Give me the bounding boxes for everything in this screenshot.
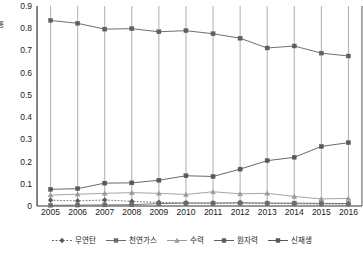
legend-item-원자력[interactable]: 원자력 xyxy=(213,236,258,245)
data-point-marker xyxy=(184,29,188,33)
data-point-marker xyxy=(102,197,107,202)
x-tick-label: 2016 xyxy=(339,208,358,217)
legend-swatch-천연가스 xyxy=(105,236,127,245)
chart-svg xyxy=(36,6,363,208)
y-tick-label: 0 xyxy=(27,202,32,211)
data-point-marker xyxy=(346,54,350,58)
data-point-marker xyxy=(265,201,269,205)
data-point-marker xyxy=(238,201,242,205)
x-tick-label: 2013 xyxy=(258,208,277,217)
x-tick-label: 2010 xyxy=(176,208,195,217)
data-point-marker xyxy=(292,155,296,159)
y-tick-label: 0.9 xyxy=(20,2,32,11)
data-point-marker xyxy=(76,21,80,25)
legend-item-무연탄[interactable]: 무연탄 xyxy=(51,236,96,245)
data-point-marker xyxy=(238,36,242,40)
y-tick-label: 0.1 xyxy=(20,180,32,189)
x-tick-label: 2006 xyxy=(68,208,87,217)
data-point-marker xyxy=(49,18,53,22)
data-point-marker xyxy=(157,202,161,206)
series-신재생 xyxy=(49,141,351,192)
x-tick-label: 2015 xyxy=(312,208,331,217)
legend-item-수력[interactable]: 수력 xyxy=(166,236,204,245)
data-point-marker xyxy=(76,187,80,191)
y-tick-label: 0.7 xyxy=(20,46,32,55)
y-tick-label: 0.6 xyxy=(20,68,32,77)
legend-label: 무연탄 xyxy=(75,236,96,245)
data-point-marker xyxy=(346,202,350,206)
data-point-marker xyxy=(292,44,296,48)
legend-label: 천연가스 xyxy=(129,236,157,245)
x-axis-tick-labels: 2005200620072008200920102011201220132014… xyxy=(36,206,363,222)
plot-area xyxy=(36,6,363,208)
legend-item-천연가스[interactable]: 천연가스 xyxy=(105,236,157,245)
data-point-marker xyxy=(319,201,323,205)
data-point-marker xyxy=(238,167,242,171)
x-tick-label: 2009 xyxy=(149,208,168,217)
y-tick-label: 0.2 xyxy=(20,157,32,166)
chart-container: 율 00.10.20.30.40.50.60.70.80.9 200520062… xyxy=(0,0,363,255)
data-point-marker xyxy=(60,237,65,242)
series-line xyxy=(51,143,349,190)
legend-swatch-신재생 xyxy=(267,236,289,245)
series-line xyxy=(51,192,349,199)
data-point-marker xyxy=(292,201,296,205)
data-point-marker xyxy=(276,238,280,242)
legend-swatch-수력 xyxy=(166,236,188,245)
data-point-marker xyxy=(184,174,188,178)
x-tick-label: 2011 xyxy=(204,208,222,217)
data-point-marker xyxy=(157,30,161,34)
data-point-marker xyxy=(211,174,215,178)
legend-swatch-원자력 xyxy=(213,236,235,245)
data-point-marker xyxy=(48,198,53,203)
y-axis-tick-labels: 00.10.20.30.40.50.60.70.80.9 xyxy=(12,6,34,216)
x-tick-label: 2008 xyxy=(122,208,141,217)
data-point-marker xyxy=(211,201,215,205)
data-point-marker xyxy=(265,159,269,163)
y-tick-label: 0.4 xyxy=(20,113,32,122)
y-axis-label: 율 xyxy=(0,6,10,28)
data-point-marker xyxy=(130,27,134,31)
data-point-marker xyxy=(114,238,118,242)
data-point-marker xyxy=(75,198,80,203)
legend-label: 수력 xyxy=(190,236,204,245)
plot-area-wrapper: 00.10.20.30.40.50.60.70.80.9 xyxy=(12,6,363,216)
x-tick-label: 2014 xyxy=(285,208,304,217)
data-point-marker xyxy=(184,201,188,205)
data-point-marker xyxy=(319,51,323,55)
x-tick-label: 2007 xyxy=(95,208,114,217)
x-tick-label: 2012 xyxy=(231,208,250,217)
x-tick-label: 2005 xyxy=(41,208,60,217)
legend-item-신재생[interactable]: 신재생 xyxy=(267,236,312,245)
data-point-marker xyxy=(319,144,323,148)
legend-label: 신재생 xyxy=(291,236,312,245)
series-수력 xyxy=(48,189,351,201)
data-point-marker xyxy=(157,178,161,182)
y-tick-label: 0.3 xyxy=(20,135,32,144)
series-원자력 xyxy=(49,18,351,58)
y-tick-label: 0.8 xyxy=(20,24,32,33)
data-point-marker xyxy=(346,141,350,145)
series-line xyxy=(51,20,349,56)
chart-legend: 무연탄천연가스수력원자력신재생 xyxy=(0,231,363,249)
data-point-marker xyxy=(222,238,226,242)
data-point-marker xyxy=(103,181,107,185)
data-point-marker xyxy=(265,46,269,50)
legend-swatch-무연탄 xyxy=(51,236,73,245)
data-point-marker xyxy=(49,187,53,191)
data-point-marker xyxy=(130,181,134,185)
y-tick-label: 0.5 xyxy=(20,91,32,100)
legend-label: 원자력 xyxy=(237,236,258,245)
data-point-marker xyxy=(103,27,107,31)
data-point-marker xyxy=(211,32,215,36)
